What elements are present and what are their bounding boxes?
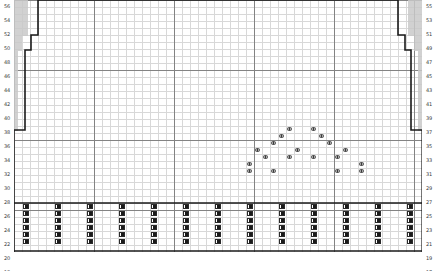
row-number-left: 22	[0, 241, 14, 248]
row-number-left: 26	[0, 213, 14, 220]
chart-grid[interactable]	[14, 0, 422, 252]
row-number-right: 41	[422, 101, 436, 108]
row-number-left: 44	[0, 87, 14, 94]
row-number-right: 55	[422, 3, 436, 10]
row-number-right: 27	[422, 199, 436, 206]
row-number-right: 29	[422, 185, 436, 192]
row-number-right: 37	[422, 129, 436, 136]
row-number-left: 48	[0, 59, 14, 66]
row-number-right: 45	[422, 73, 436, 80]
row-number-right: 21	[422, 241, 436, 248]
row-number-right: 43	[422, 87, 436, 94]
stitch-chart: 5654525048464442403836343230282624222018…	[0, 0, 436, 271]
row-number-left: 46	[0, 73, 14, 80]
row-number-right: 49	[422, 45, 436, 52]
row-number-left: 56	[0, 3, 14, 10]
row-number-left: 50	[0, 45, 14, 52]
row-number-left: 24	[0, 227, 14, 234]
row-number-left: 42	[0, 101, 14, 108]
row-number-right: 25	[422, 213, 436, 220]
row-number-right: 39	[422, 115, 436, 122]
shaping-outline	[14, 0, 422, 252]
row-number-right: 35	[422, 143, 436, 150]
row-number-right: 19	[422, 255, 436, 262]
row-number-left: 38	[0, 129, 14, 136]
row-number-left: 36	[0, 143, 14, 150]
row-number-left: 20	[0, 255, 14, 262]
row-number-left: 34	[0, 157, 14, 164]
row-number-left: 28	[0, 199, 14, 206]
row-number-right: 51	[422, 31, 436, 38]
row-number-left: 30	[0, 185, 14, 192]
row-number-left: 40	[0, 115, 14, 122]
row-number-left: 32	[0, 171, 14, 178]
row-number-right: 23	[422, 227, 436, 234]
row-number-left: 52	[0, 31, 14, 38]
row-numbers-right: 5553514947454341393735333129272523211917…	[422, 0, 436, 252]
row-number-right: 33	[422, 157, 436, 164]
row-number-right: 47	[422, 59, 436, 66]
row-numbers-left: 5654525048464442403836343230282624222018…	[0, 0, 14, 252]
row-number-left: 54	[0, 17, 14, 24]
row-number-right: 53	[422, 17, 436, 24]
row-number-right: 31	[422, 171, 436, 178]
